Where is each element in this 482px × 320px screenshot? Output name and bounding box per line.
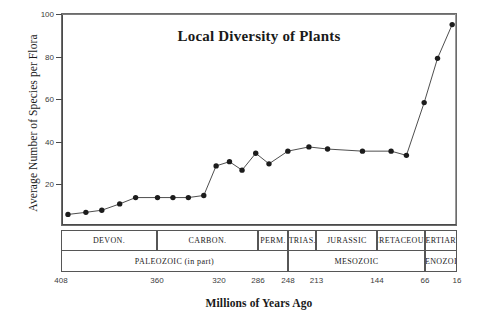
data-point-13 <box>266 161 271 166</box>
data-point-17 <box>360 148 365 153</box>
data-point-22 <box>449 22 454 27</box>
data-point-6 <box>170 195 175 200</box>
data-point-2 <box>99 208 104 213</box>
data-point-0 <box>65 212 70 217</box>
y-tick-label: 20 <box>45 180 54 189</box>
x-axis-title: Millions of Years Ago <box>61 297 457 309</box>
geologic-time-scale: DEVON.CARBON.PERM.TRIAS.JURASSICCRETACEO… <box>61 230 457 272</box>
data-point-10 <box>227 159 232 164</box>
geologic-periods-row: DEVON.CARBON.PERM.TRIAS.JURASSICCRETACEO… <box>61 230 457 251</box>
period-band-carbon: CARBON. <box>157 230 258 251</box>
period-band-trias: TRIAS. <box>288 230 317 251</box>
period-band-perm: PERM. <box>258 230 288 251</box>
data-point-9 <box>213 163 218 168</box>
data-point-20 <box>421 100 426 105</box>
x-axis-tick-labels: 4083603202862482131446616 <box>0 276 482 290</box>
x-tick-label-320: 320 <box>212 276 225 285</box>
geologic-eras-row: PALEOZOIC (in part)MESOZOICCENOZOIC <box>61 250 457 272</box>
y-tick-label: 100 <box>41 10 54 19</box>
data-point-4 <box>133 195 138 200</box>
data-point-19 <box>404 153 409 158</box>
period-band-devon: DEVON. <box>61 230 157 251</box>
data-point-5 <box>155 195 160 200</box>
chart-figure: Average Number of Species per Flora 2040… <box>0 0 482 320</box>
era-band-paleozoic-in-part: PALEOZOIC (in part) <box>61 250 288 272</box>
era-band-mesozoic: MESOZOIC <box>288 250 425 272</box>
x-tick-label-360: 360 <box>150 276 163 285</box>
x-tick-label-16: 16 <box>453 276 462 285</box>
data-point-15 <box>306 144 311 149</box>
data-point-21 <box>435 56 440 61</box>
era-band-cenozoic: CENOZOIC <box>425 250 457 272</box>
x-tick-label-66: 66 <box>421 276 430 285</box>
x-tick-label-213: 213 <box>310 276 323 285</box>
data-series-line <box>62 14 456 225</box>
period-band-jurassic: JURASSIC <box>316 230 377 251</box>
period-band-cretaceous: CRETACEOUS <box>377 230 425 251</box>
x-tick-label-144: 144 <box>370 276 383 285</box>
data-point-18 <box>388 148 393 153</box>
y-tick-label: 80 <box>45 52 54 61</box>
data-point-14 <box>285 148 290 153</box>
data-point-16 <box>325 146 330 151</box>
data-point-12 <box>253 151 258 156</box>
data-point-8 <box>201 193 206 198</box>
y-tick-label: 40 <box>45 137 54 146</box>
data-point-3 <box>117 201 122 206</box>
x-tick-label-248: 248 <box>281 276 294 285</box>
y-tick-label: 60 <box>45 95 54 104</box>
x-tick-label-286: 286 <box>251 276 264 285</box>
data-point-7 <box>186 195 191 200</box>
data-point-1 <box>83 210 88 215</box>
data-point-11 <box>239 167 244 172</box>
period-band-tertiary: TERTIARY <box>425 230 457 251</box>
x-tick-label-408: 408 <box>54 276 67 285</box>
plot-area: 20406080100 Local Diversity of Plants <box>61 13 457 226</box>
y-axis-title: Average Number of Species per Flora <box>27 8 39 238</box>
series-line <box>68 25 452 215</box>
